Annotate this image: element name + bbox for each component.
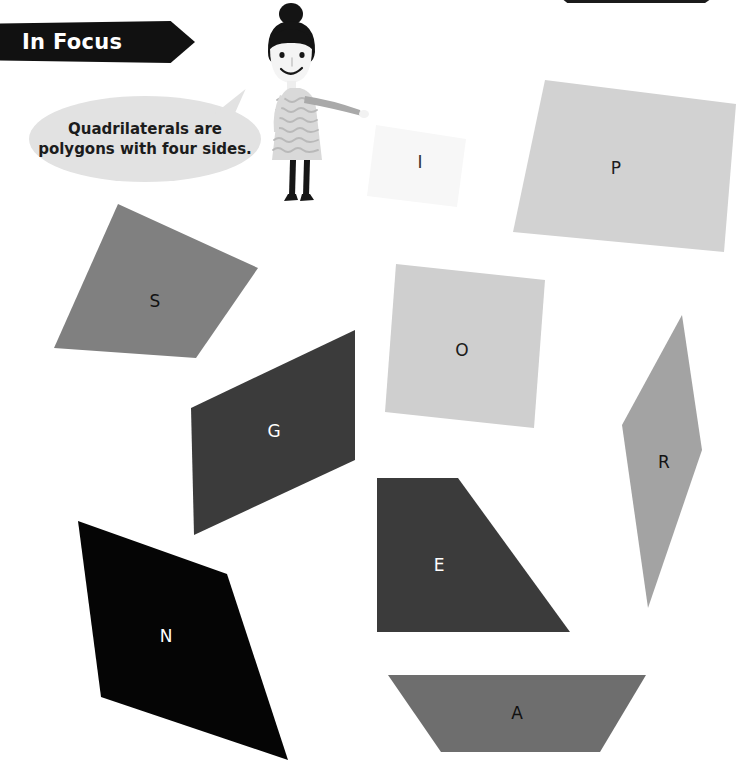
- shape-label-S: S: [150, 291, 161, 311]
- shape-label-G: G: [267, 421, 280, 441]
- shape-group-E[interactable]: E: [377, 478, 570, 632]
- shape-group-A[interactable]: A: [388, 675, 646, 752]
- shape-label-A: A: [511, 703, 523, 723]
- shape-label-P: P: [611, 158, 621, 178]
- shape-group-S[interactable]: S: [54, 204, 258, 358]
- shape-polygon-N[interactable]: [78, 521, 288, 760]
- shape-label-N: N: [160, 626, 173, 646]
- shape-group-I[interactable]: I: [367, 125, 466, 207]
- quadrilateral-shapes-layer: I P S O G R E N: [0, 0, 736, 770]
- shape-group-G[interactable]: G: [191, 330, 355, 535]
- shape-label-O: O: [455, 340, 468, 360]
- shape-label-R: R: [658, 452, 670, 472]
- shape-polygon-P[interactable]: [513, 80, 736, 252]
- shape-group-O[interactable]: O: [385, 264, 545, 428]
- shape-polygon-E[interactable]: [377, 478, 570, 632]
- shape-label-E: E: [434, 555, 445, 575]
- shape-label-I: I: [417, 152, 422, 172]
- shape-group-P[interactable]: P: [513, 80, 736, 252]
- shape-group-N[interactable]: N: [78, 521, 288, 760]
- worksheet-canvas: In Focus Quadrilaterals are polygons wit…: [0, 0, 736, 770]
- shape-group-R[interactable]: R: [622, 315, 702, 608]
- shape-polygon-S[interactable]: [54, 204, 258, 358]
